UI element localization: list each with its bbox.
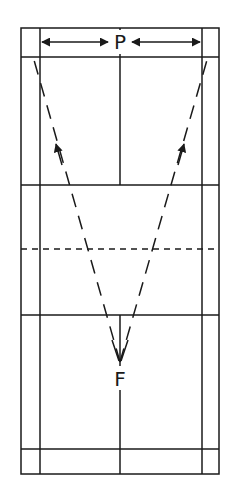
badminton-court-diagram: P F <box>0 0 235 489</box>
f-arrow-right-stroke <box>121 340 128 361</box>
left-dashed-path <box>34 60 120 362</box>
right-path-arrowhead <box>178 144 184 165</box>
f-arrow-left-stroke <box>112 340 119 361</box>
label-f: F <box>114 367 126 391</box>
label-p: P <box>114 30 126 54</box>
